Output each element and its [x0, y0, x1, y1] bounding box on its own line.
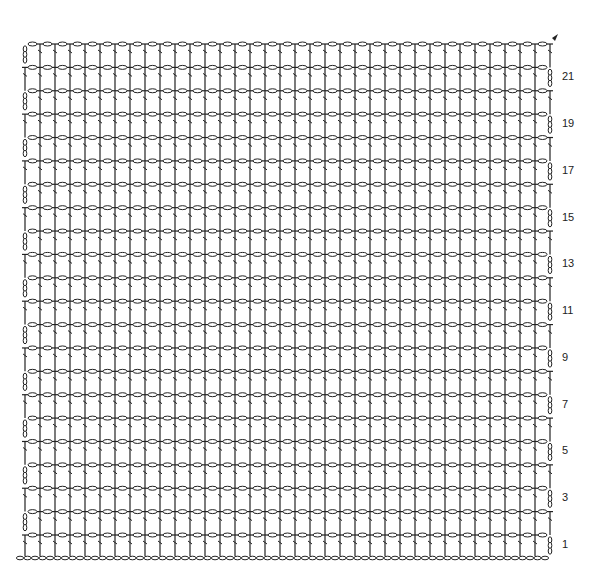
row-label: 21 [562, 70, 574, 82]
row-label: 9 [562, 351, 568, 363]
row-label: 17 [562, 164, 574, 176]
row-label: 1 [562, 538, 568, 550]
crochet-chart [0, 0, 591, 577]
row-label: 13 [562, 257, 574, 269]
row-label: 19 [562, 117, 574, 129]
row-label: 11 [562, 304, 573, 316]
start-arrow-icon [552, 34, 558, 41]
row-label: 7 [562, 398, 568, 410]
row-label: 15 [562, 211, 574, 223]
row-label: 3 [562, 491, 568, 503]
row-label: 5 [562, 444, 568, 456]
